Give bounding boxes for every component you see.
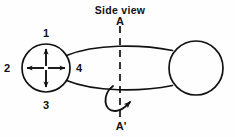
right-circle-end bbox=[169, 41, 223, 95]
direction-label-3: 3 bbox=[43, 100, 49, 111]
axis-label-top-a: A bbox=[116, 16, 124, 27]
direction-label-2: 2 bbox=[4, 63, 10, 74]
direction-label-4: 4 bbox=[76, 63, 82, 74]
direction-label-1: 1 bbox=[43, 28, 49, 39]
figure-container: Side view A A' 1 2 3 4 bbox=[0, 0, 235, 137]
radial-arrows-group bbox=[27, 49, 65, 87]
axis-label-bottom-a-prime: A' bbox=[116, 121, 127, 132]
